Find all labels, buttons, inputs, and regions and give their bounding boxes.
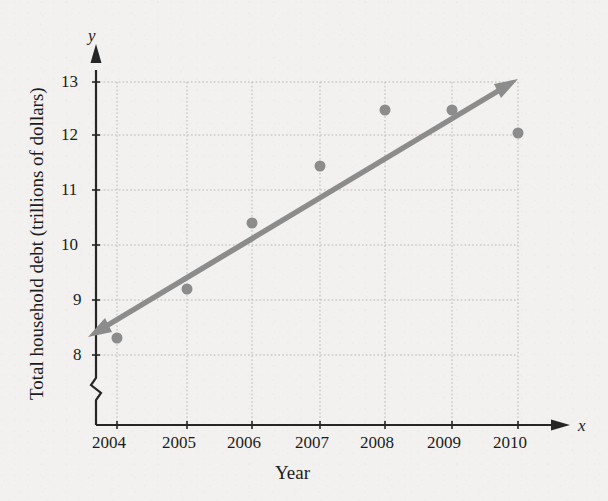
y-axis — [91, 44, 102, 425]
scatter-plot-canvas — [0, 0, 608, 501]
y-tick-label-11: 11 — [61, 180, 77, 200]
trend-line-arrowhead-right — [494, 79, 518, 98]
y-tick-label-13: 13 — [61, 72, 78, 92]
x-tick-label-2005: 2005 — [162, 433, 196, 453]
x-axis — [96, 420, 570, 431]
x-tick-label-2010: 2010 — [493, 433, 527, 453]
y-axis-variable-symbol: y — [88, 26, 96, 46]
data-point-2006 — [247, 218, 258, 229]
x-tick-label-2004: 2004 — [92, 433, 126, 453]
trend-line — [88, 79, 518, 337]
x-tick-label-2008: 2008 — [360, 433, 394, 453]
y-tick-label-9: 9 — [73, 290, 82, 310]
y-tick-label-10: 10 — [61, 235, 78, 255]
y-axis-line — [91, 70, 101, 425]
data-point-2005 — [182, 284, 193, 295]
horizontal-gridlines — [96, 82, 518, 355]
x-tick-label-2009: 2009 — [427, 433, 461, 453]
trend-line-segment — [103, 88, 503, 328]
data-point-2007 — [315, 161, 326, 172]
data-point-2004 — [112, 333, 123, 344]
data-point-2009 — [447, 105, 458, 116]
data-point-2010 — [513, 128, 524, 139]
y-axis-title: Total household debt (trillions of dolla… — [26, 87, 48, 400]
x-axis-title: Year — [275, 462, 310, 484]
y-tick-label-12: 12 — [61, 125, 78, 145]
x-tick-label-2007: 2007 — [295, 433, 329, 453]
x-tick-label-2006: 2006 — [227, 433, 261, 453]
y-axis-arrowhead — [91, 44, 102, 63]
x-axis-variable-symbol: x — [578, 416, 586, 436]
trend-line-arrowhead-left — [88, 318, 112, 337]
data-points — [112, 105, 524, 344]
chart-figure: y x 13 12 11 10 9 8 2004 2005 2006 2007 … — [0, 0, 608, 501]
vertical-gridlines — [117, 82, 518, 425]
x-axis-arrowhead — [551, 420, 570, 431]
y-tick-label-8: 8 — [73, 345, 82, 365]
data-point-2008 — [380, 105, 391, 116]
